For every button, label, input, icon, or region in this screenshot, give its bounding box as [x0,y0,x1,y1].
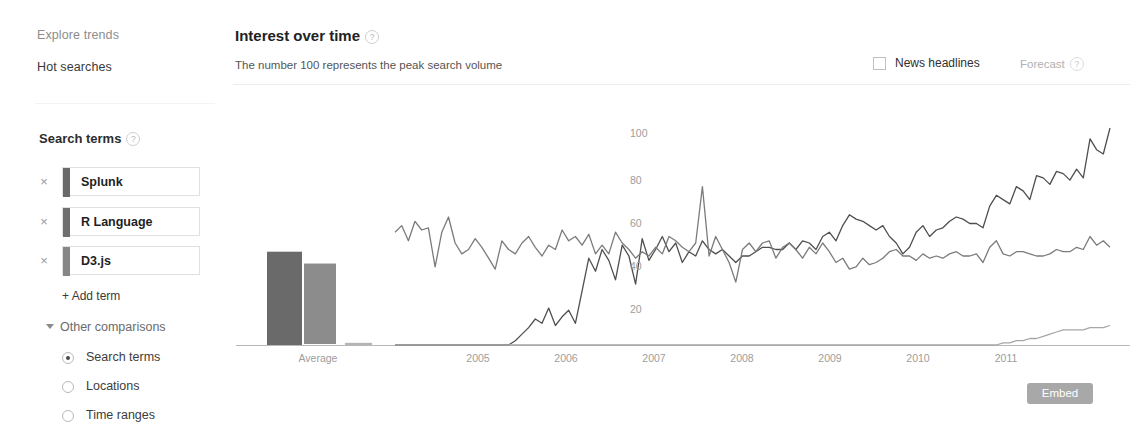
series-lines [395,128,1110,345]
term-color-swatch [63,247,70,276]
radio-label: Time ranges [86,408,155,422]
sidebar-item-hot-searches[interactable]: Hot searches [37,60,112,74]
x-tick-label: 2008 [722,352,762,364]
search-term-label: R Language [81,215,153,229]
search-term-label: Splunk [81,175,123,189]
average-axis-label: Average [288,352,348,364]
average-bars [267,252,372,345]
series-line [395,128,1110,345]
chart-canvas [225,0,1138,445]
term-color-swatch [63,208,70,237]
x-tick-label: 2010 [898,352,938,364]
radio-label: Locations [86,379,140,393]
search-terms-heading: Search terms? [39,131,140,146]
y-tick-label: 100 [630,127,648,139]
x-tick-label: 2009 [810,352,850,364]
sidebar-item-explore-trends[interactable]: Explore trends [37,28,119,42]
average-bar [345,343,372,345]
interest-over-time-chart: 100 80 60 40 20 Average 2005 2006 2007 2… [225,0,1138,445]
search-term-row[interactable]: × D3.js [38,246,200,277]
sidebar: Explore trends Hot searches Search terms… [0,0,225,445]
radio-label: Search terms [86,350,160,364]
search-term-row[interactable]: × Splunk [38,167,200,198]
term-color-swatch [63,168,70,197]
help-icon[interactable]: ? [126,132,140,146]
add-term-button[interactable]: + Add term [62,289,120,303]
trends-page: Explore trends Hot searches Search terms… [0,0,1138,445]
average-bar [267,252,302,345]
remove-term-icon[interactable]: × [38,254,50,267]
main-panel: Interest over time? The number 100 repre… [225,0,1138,445]
radio-icon[interactable] [62,381,74,393]
search-term-input[interactable]: R Language [62,207,200,236]
chevron-down-icon [46,324,54,329]
other-comparisons-label: Other comparisons [60,320,166,334]
search-terms-heading-label: Search terms [39,131,121,146]
remove-term-icon[interactable]: × [38,175,50,188]
y-tick-label: 40 [630,260,642,272]
search-term-input[interactable]: Splunk [62,167,200,196]
radio-icon[interactable] [62,352,74,364]
sidebar-divider [35,103,215,104]
search-term-label: D3.js [81,254,111,268]
series-line [395,187,1110,283]
search-term-input[interactable]: D3.js [62,246,200,275]
average-bar [303,263,337,345]
x-tick-label: 2006 [546,352,586,364]
embed-button[interactable]: Embed [1027,383,1093,404]
search-term-row[interactable]: × R Language [38,207,200,238]
y-tick-label: 20 [630,303,642,315]
x-tick-label: 2011 [986,352,1026,364]
x-tick-label: 2007 [634,352,674,364]
x-tick-label: 2005 [458,352,498,364]
y-tick-label: 60 [630,217,642,229]
y-tick-label: 80 [630,174,642,186]
remove-term-icon[interactable]: × [38,215,50,228]
series-line [395,326,1110,346]
radio-icon[interactable] [62,410,74,422]
other-comparisons-toggle[interactable]: Other comparisons [46,320,166,334]
